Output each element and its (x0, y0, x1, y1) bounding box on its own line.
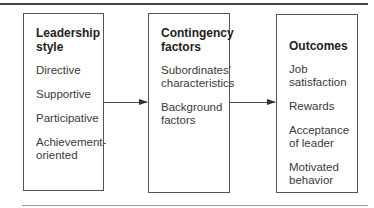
list-item: Job satisfaction (289, 63, 357, 89)
outcomes-box: Outcomes Job satisfaction Rewards Accept… (276, 14, 358, 193)
top-rule (0, 3, 368, 5)
list-item: Achievement- oriented (36, 136, 103, 162)
arrow-right-icon (104, 102, 147, 103)
box-title: Contingency factors (161, 26, 229, 54)
box-title: Outcomes (289, 39, 357, 53)
list-item: Background factors (161, 101, 229, 127)
box-title: Leadership style (36, 26, 103, 54)
list-item: Subordinates' characteristics (161, 64, 229, 90)
list-item: Supportive (36, 88, 103, 101)
list-item: Acceptance of leader (289, 124, 357, 150)
list-item: Rewards (289, 100, 357, 113)
bottom-rule (22, 205, 368, 206)
arrow-right-icon (230, 102, 275, 103)
list-item: Motivated behavior (289, 161, 357, 187)
list-item: Participative (36, 112, 103, 125)
contingency-factors-box: Contingency factors Subordinates' charac… (148, 13, 230, 193)
leadership-style-box: Leadership style Directive Supportive Pa… (23, 13, 104, 191)
list-item: Directive (36, 64, 103, 77)
